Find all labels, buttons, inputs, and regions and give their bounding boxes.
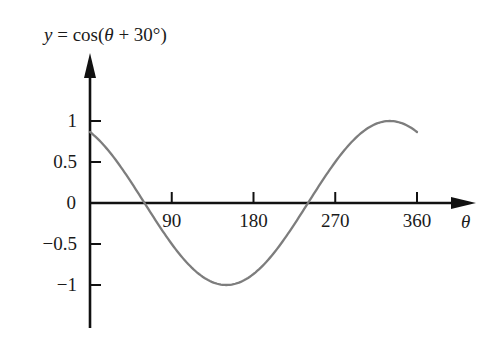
x-axis-arrow-icon <box>451 197 476 209</box>
title-y: y <box>42 24 53 45</box>
title-eq: = cos( <box>52 24 104 46</box>
title-rest: + 30°) <box>114 24 167 46</box>
x-ticks: 90180270360 <box>162 192 431 231</box>
cosine-chart: y = cos(θ + 30°) 10.50−0.5−1 90180270360… <box>0 0 498 344</box>
y-tick-label: 0 <box>67 192 77 213</box>
x-tick-label: 360 <box>403 210 432 231</box>
y-tick-label: −0.5 <box>43 233 77 254</box>
y-tick-label: −1 <box>57 274 77 295</box>
y-tick-label: 0.5 <box>53 151 77 172</box>
x-tick-label: 270 <box>321 210 350 231</box>
title-theta: θ <box>104 24 113 45</box>
x-axis-label: θ <box>461 211 470 232</box>
x-tick-label: 90 <box>162 210 181 231</box>
chart-title: y = cos(θ + 30°) <box>42 24 167 46</box>
y-tick-label: 1 <box>68 110 78 131</box>
x-tick-label: 180 <box>239 210 268 231</box>
y-axis-arrow-icon <box>84 53 96 78</box>
